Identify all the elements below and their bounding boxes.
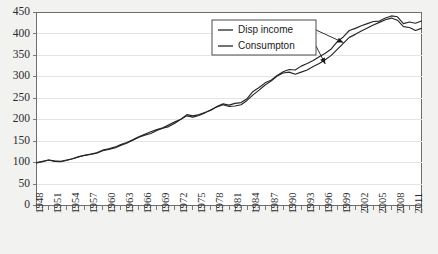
x-tick-label: 1987 [269, 193, 280, 214]
y-tick-label: 450 [13, 5, 31, 17]
y-tick-label: 350 [13, 48, 31, 60]
x-tick-label: 1996 [323, 193, 334, 214]
y-tick-label: 50 [19, 177, 31, 189]
x-tick-label: 1954 [70, 192, 81, 214]
x-tick-label: 1984 [250, 192, 261, 214]
x-tick-label: 1957 [88, 193, 99, 214]
chart-canvas: 0501001502002503003504004501948195119541… [0, 0, 438, 254]
y-tick-label: 300 [13, 69, 31, 81]
y-tick-label: 0 [24, 198, 30, 210]
legend-label-disp-income: Disp income [238, 24, 293, 35]
x-tick-label: 1972 [178, 193, 189, 214]
legend-label-consumption: Consumpton [238, 40, 295, 51]
y-tick-label: 100 [13, 155, 31, 167]
x-tick-label: 1960 [106, 193, 117, 214]
y-axis: 050100150200250300350400450 [13, 5, 37, 210]
x-tick-label: 1966 [142, 193, 153, 214]
y-tick-label: 250 [13, 91, 31, 103]
x-tick-label: 1990 [287, 193, 298, 214]
x-tick-label: 1978 [214, 193, 225, 214]
x-tick-label: 1981 [232, 193, 243, 214]
x-tick-label: 1963 [124, 193, 135, 214]
x-tick-label: 1969 [160, 193, 171, 214]
y-tick-label: 400 [13, 27, 31, 39]
x-tick-label: 2002 [359, 193, 370, 214]
x-tick-label: 2011 [413, 193, 424, 214]
legend: Disp incomeConsumpton [212, 20, 316, 55]
y-tick-label: 150 [13, 134, 31, 146]
x-tick-label: 1951 [52, 193, 63, 214]
y-tick-label: 200 [13, 112, 31, 124]
x-tick-label: 2008 [395, 193, 406, 214]
x-tick-label: 1975 [196, 193, 207, 214]
x-tick-label: 1948 [34, 193, 45, 214]
x-tick-label: 1999 [341, 193, 352, 214]
x-tick-label: 1993 [305, 193, 316, 214]
x-tick-label: 2005 [377, 193, 388, 214]
line-chart: 0501001502002503003504004501948195119541… [0, 0, 438, 254]
